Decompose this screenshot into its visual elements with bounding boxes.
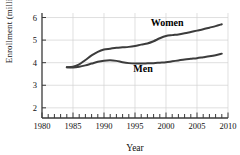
series-label-women: Women <box>151 17 184 28</box>
y-tick-label: 3 <box>33 80 37 90</box>
x-axis-title: Year <box>42 137 228 155</box>
x-tick-label: 2010 <box>220 121 237 131</box>
series-label-men: Men <box>133 63 153 74</box>
x-tick-label: 1995 <box>127 121 144 131</box>
x-axis-title-text: Year <box>126 143 144 153</box>
enrollment-line-chart: 23456 1980198519901995200020052010 Women… <box>0 0 240 155</box>
y-tick-label: 4 <box>33 58 38 68</box>
data-series-curves <box>67 24 222 67</box>
y-axis-title: Enrollment (millions) <box>2 0 16 76</box>
y-tick-label: 5 <box>33 35 37 45</box>
series-line-women <box>67 24 222 67</box>
y-axis-title-text: Enrollment (millions) <box>4 0 14 63</box>
y-tick-label: 6 <box>33 13 37 23</box>
x-tick-label: 1990 <box>96 121 113 131</box>
x-tick-label: 1980 <box>34 121 51 131</box>
y-tick-label: 2 <box>33 103 37 113</box>
x-tick-label: 2005 <box>189 121 206 131</box>
x-axis-tick-marks <box>42 113 228 119</box>
x-tick-label: 2000 <box>158 121 175 131</box>
x-axis-tick-labels: 1980198519901995200020052010 <box>34 121 237 131</box>
chart-canvas: 23456 1980198519901995200020052010 Women… <box>0 0 240 155</box>
y-axis-tick-labels: 23456 <box>33 13 38 113</box>
x-tick-label: 1985 <box>65 121 82 131</box>
